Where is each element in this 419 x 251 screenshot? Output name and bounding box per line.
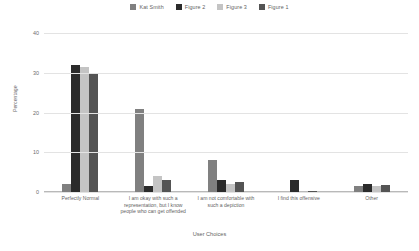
legend-item[interactable]: Kat Smith	[130, 4, 163, 10]
y-axis-tick-label: 30	[33, 70, 39, 76]
bar[interactable]	[235, 182, 244, 192]
bar[interactable]	[80, 67, 89, 192]
x-axis-title: User Choices	[0, 231, 419, 237]
gridline	[44, 73, 408, 74]
legend-label: Figure 1	[268, 4, 289, 10]
legend-swatch-icon	[130, 4, 136, 10]
x-axis-category-label: I am okay with such a representation, bu…	[117, 195, 190, 215]
bar[interactable]	[71, 65, 80, 192]
legend-item[interactable]: Figure 3	[217, 4, 247, 10]
x-axis-category-label: I am not comfortable with such a depicti…	[190, 195, 263, 215]
x-axis-category-label: Perfectly Normal	[44, 195, 117, 215]
y-axis-tick-label: 10	[33, 149, 39, 155]
legend-item[interactable]: Figure 1	[259, 4, 289, 10]
y-axis-tick-label: 0	[36, 189, 39, 195]
gridline	[44, 192, 408, 193]
y-axis-title: Percentage	[12, 85, 18, 112]
bar[interactable]	[363, 184, 372, 192]
bar[interactable]	[217, 180, 226, 192]
plot-area: 010203040	[44, 33, 408, 192]
bar-chart: Kat SmithFigure 2Figure 3Figure 1 Percen…	[0, 0, 419, 251]
x-axis-category-label: I find this offensive	[262, 195, 335, 215]
legend-swatch-icon	[217, 4, 223, 10]
legend-label: Figure 3	[226, 4, 247, 10]
x-axis-tick-labels: Perfectly NormalI am okay with such a re…	[44, 195, 408, 215]
bar[interactable]	[208, 160, 217, 192]
legend-swatch-icon	[259, 4, 265, 10]
bar[interactable]	[62, 184, 71, 192]
gridline	[44, 113, 408, 114]
x-axis-category-label: Other	[335, 195, 408, 215]
bar[interactable]	[290, 180, 299, 192]
legend-label: Kat Smith	[139, 4, 163, 10]
bar[interactable]	[381, 185, 390, 192]
bar[interactable]	[162, 180, 171, 192]
bar[interactable]	[89, 73, 98, 192]
chart-legend: Kat SmithFigure 2Figure 3Figure 1	[0, 4, 419, 10]
bar[interactable]	[226, 184, 235, 192]
bar[interactable]	[135, 109, 144, 192]
legend-swatch-icon	[176, 4, 182, 10]
y-axis-tick-label: 40	[33, 30, 39, 36]
gridline	[44, 33, 408, 34]
bar[interactable]	[153, 176, 162, 192]
gridline	[44, 152, 408, 153]
y-axis-tick-label: 20	[33, 110, 39, 116]
legend-label: Figure 2	[185, 4, 206, 10]
legend-item[interactable]: Figure 2	[176, 4, 206, 10]
